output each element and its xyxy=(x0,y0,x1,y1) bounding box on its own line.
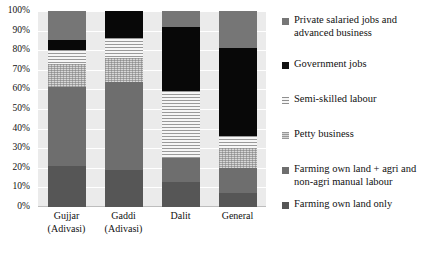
bar-segment-private[interactable] xyxy=(48,11,86,40)
bar-stack xyxy=(105,11,143,207)
legend-swatch-private-icon xyxy=(282,18,289,25)
x-axis-label-line1: Gujjar xyxy=(54,210,80,221)
bar-segment-semiskilled[interactable] xyxy=(105,38,143,58)
y-axis-tick-label: 40% xyxy=(13,124,30,134)
legend-label: Semi-skilled labour xyxy=(294,93,438,106)
legend-item-semiskilled[interactable]: Semi-skilled labour xyxy=(282,93,438,106)
y-axis-tick-label: 10% xyxy=(13,183,30,193)
bar-segment-petty[interactable] xyxy=(105,58,143,82)
x-axis-label-line1: Gaddi xyxy=(111,210,135,221)
legend-item-petty[interactable]: Petty business xyxy=(282,128,438,141)
x-axis: Gujjar(Adivasi)Gaddi(Adivasi)DalitGenera… xyxy=(38,209,266,249)
y-axis-tick-label: 80% xyxy=(13,45,30,55)
legend-swatch-farmonly-icon xyxy=(282,202,289,209)
bar-stack xyxy=(48,11,86,207)
legend-label: Government jobs xyxy=(294,58,438,71)
legend-label: Private salaried jobs and xyxy=(294,14,438,27)
y-axis-tick-label: 100% xyxy=(8,6,30,16)
bar-segment-farmlabour[interactable] xyxy=(48,87,86,165)
legend-label-line2: advanced business xyxy=(294,27,438,40)
bar-segment-government[interactable] xyxy=(219,48,257,136)
plot-wrapper xyxy=(38,11,266,207)
y-axis-tick-label: 90% xyxy=(13,26,30,36)
bar-stack xyxy=(162,11,200,207)
y-axis-tick-label: 20% xyxy=(13,163,30,173)
legend-item-farmonly[interactable]: Farming own land only xyxy=(282,198,438,211)
y-axis-tick-label: 60% xyxy=(13,85,30,95)
bar-group[interactable] xyxy=(162,11,200,207)
plot-area xyxy=(38,11,266,207)
bar-segment-private[interactable] xyxy=(162,11,200,27)
bar-segment-farmlabour[interactable] xyxy=(219,168,257,193)
stacked-bar-chart: 0%10%20%30%40%50%60%70%80%90%100% Gujjar… xyxy=(0,0,440,263)
y-axis-tick-label: 0% xyxy=(17,202,30,212)
legend-swatch-petty-icon xyxy=(282,132,289,139)
bar-segment-government[interactable] xyxy=(48,40,86,50)
x-axis-label-line2: (Adivasi) xyxy=(87,222,161,235)
legend-swatch-government-icon xyxy=(282,62,289,69)
bar-segment-government[interactable] xyxy=(162,27,200,92)
bar-segment-farmonly[interactable] xyxy=(219,193,257,207)
bar-segment-farmonly[interactable] xyxy=(105,170,143,207)
bar-group[interactable] xyxy=(105,11,143,207)
legend-swatch-farmlabour-icon xyxy=(282,167,289,174)
legend-item-farmlabour[interactable]: Farming own land + agri andnon-agri manu… xyxy=(282,163,438,188)
bar-segment-farmlabour[interactable] xyxy=(162,158,200,182)
bar-stack xyxy=(219,11,257,207)
y-axis-tick-label: 50% xyxy=(13,104,30,114)
legend-label: Farming own land only xyxy=(294,198,438,211)
bar-segment-government[interactable] xyxy=(105,11,143,38)
bar-segment-semiskilled[interactable] xyxy=(219,136,257,148)
bar-segment-semiskilled[interactable] xyxy=(48,50,86,64)
y-axis-tick-label: 70% xyxy=(13,65,30,75)
legend-item-government[interactable]: Government jobs xyxy=(282,58,438,71)
legend-label: Petty business xyxy=(294,128,438,141)
bar-segment-semiskilled[interactable] xyxy=(162,91,200,158)
legend-item-private[interactable]: Private salaried jobs andadvanced busine… xyxy=(282,14,438,39)
bar-group[interactable] xyxy=(48,11,86,207)
bar-segment-farmonly[interactable] xyxy=(48,166,86,207)
bar-segment-farmlabour[interactable] xyxy=(105,82,143,170)
bar-group[interactable] xyxy=(219,11,257,207)
bar-segment-private[interactable] xyxy=(219,11,257,48)
bar-segment-petty[interactable] xyxy=(219,148,257,168)
legend-label: Farming own land + agri and xyxy=(294,163,438,176)
y-axis-tick-label: 30% xyxy=(13,143,30,153)
y-axis: 0%10%20%30%40%50%60%70%80%90%100% xyxy=(0,11,34,207)
bar-segment-farmonly[interactable] xyxy=(162,182,200,207)
legend-swatch-semiskilled-icon xyxy=(282,97,289,104)
x-axis-label-line1: Dalit xyxy=(171,210,191,221)
x-axis-label-line1: General xyxy=(222,210,254,221)
legend-label-line2: non-agri manual labour xyxy=(294,176,438,189)
bar-segment-petty[interactable] xyxy=(48,64,86,88)
x-axis-category-label: General xyxy=(201,209,275,222)
